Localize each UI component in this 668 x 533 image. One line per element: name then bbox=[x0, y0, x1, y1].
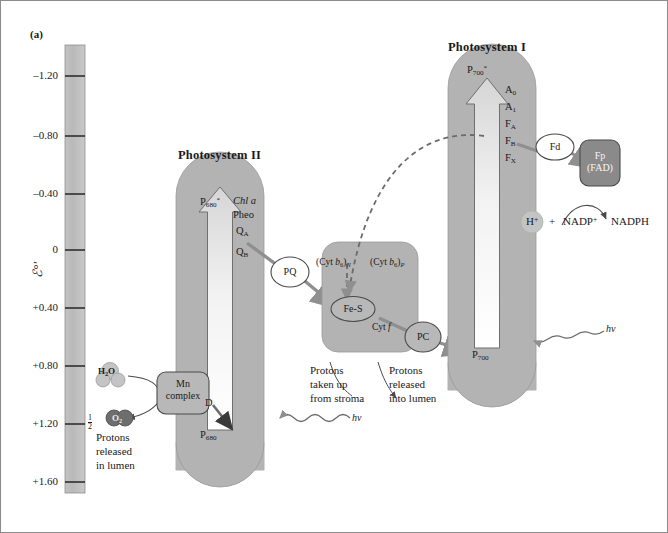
water-symbol: H bbox=[98, 366, 105, 376]
p680-ground-label: P680 bbox=[200, 429, 217, 442]
cyt-b6-n-prefix: (Cyt bbox=[316, 257, 335, 267]
qa-subscript: A bbox=[244, 230, 249, 238]
chl-a-label: Chl a bbox=[233, 195, 256, 207]
uptake-line3: from stroma bbox=[310, 392, 364, 404]
axis-tick-label: +0.80 bbox=[14, 359, 58, 372]
fb-label: FB bbox=[505, 135, 516, 148]
p680-excited-star: * bbox=[217, 196, 221, 204]
axis-tick-label: +0.40 bbox=[14, 301, 58, 314]
cyt-f-label: Cyt f bbox=[372, 322, 391, 333]
nadph-label: NADPH bbox=[611, 215, 649, 228]
psi-photon-label: hν bbox=[606, 323, 615, 335]
fa-subscript: A bbox=[511, 123, 516, 131]
proton-charge: + bbox=[534, 215, 538, 224]
oxygen-coefficient-numerator: 1 bbox=[88, 414, 92, 422]
release-line1: Protons bbox=[389, 364, 423, 376]
qb-symbol: Q bbox=[236, 246, 244, 257]
psii-photon-label: hν bbox=[352, 412, 361, 424]
fp-line1: Fp bbox=[595, 150, 606, 161]
lumen-note-line2: released bbox=[96, 445, 132, 457]
lumen-note-line3: in lumen bbox=[96, 459, 135, 471]
lumen-note-line1: Protons bbox=[96, 431, 130, 443]
fx-label: FX bbox=[505, 152, 516, 165]
lumen-proton-note: Protons released in lumen bbox=[96, 431, 135, 472]
axis-tick-label: +1.20 bbox=[14, 417, 58, 430]
qa-symbol: Q bbox=[236, 225, 244, 236]
photosystem-i-title: Photosystem I bbox=[448, 40, 526, 54]
oxygen-label: O2 bbox=[112, 413, 122, 425]
axis-tick-label: +1.60 bbox=[14, 475, 58, 488]
nadp-symbol: NADP bbox=[563, 215, 593, 227]
p700-excited-label: P700* bbox=[467, 64, 487, 77]
plus-sign: + bbox=[549, 215, 555, 228]
panel-label: (a) bbox=[30, 28, 43, 41]
fx-subscript: X bbox=[511, 157, 516, 165]
p700-excited-star: * bbox=[484, 64, 488, 72]
a0-symbol: A bbox=[505, 84, 513, 95]
proton-release-note: Protons released into lumen bbox=[389, 364, 436, 405]
qb-subscript: B bbox=[244, 251, 249, 259]
axis-tick-label: 0 bbox=[14, 243, 58, 256]
fb-subscript: B bbox=[511, 140, 516, 148]
fes-label: Fe-S bbox=[336, 303, 370, 315]
a1-label: A1 bbox=[505, 101, 516, 114]
fp-fad-label: Fp (FAD) bbox=[580, 150, 620, 173]
nadp-label: NADP+ bbox=[563, 215, 597, 228]
p680-ground-subscript: 680 bbox=[206, 434, 217, 442]
cyt-f-letter: f bbox=[388, 322, 391, 332]
oxygen-symbol: O bbox=[112, 413, 119, 423]
a1-symbol: A bbox=[505, 101, 513, 112]
proton-symbol: H bbox=[526, 215, 534, 227]
axis-tick-label: –1.20 bbox=[14, 69, 58, 82]
p680-excited-label: P680* bbox=[200, 196, 220, 209]
axis-tick-label: –0.80 bbox=[14, 129, 58, 142]
release-line2: released bbox=[389, 378, 425, 390]
axis-title: ℰ°' bbox=[31, 262, 46, 278]
water-oxygen: O bbox=[108, 366, 115, 376]
fp-line2: (FAD) bbox=[587, 162, 613, 173]
figure-canvas: (a) ℰ°' –1.20 –0.80 –0.40 0 +0.40 +0.80 … bbox=[0, 0, 668, 533]
oxygen-coefficient-denominator: 2 bbox=[88, 422, 92, 431]
release-line3: into lumen bbox=[389, 392, 436, 404]
oxygen-coefficient: 1 2 bbox=[88, 412, 92, 431]
water-to-mn-arc bbox=[128, 376, 160, 394]
mn-complex-line1: Mn bbox=[176, 378, 190, 389]
donor-d-label: D bbox=[205, 397, 213, 409]
water-label: H2O bbox=[98, 366, 115, 378]
a0-subscript: 0 bbox=[513, 89, 517, 97]
cyt-b6-n-label: (Cyt b6)N bbox=[316, 257, 351, 268]
mn-complex-label: Mn complex bbox=[160, 378, 206, 401]
cyt-b6-p-subscript: P bbox=[400, 261, 404, 268]
potential-scale-bar bbox=[65, 45, 85, 493]
p700-ground-label: P700 bbox=[472, 349, 489, 362]
psi-photon-wave bbox=[534, 331, 604, 342]
cyt-b6-p-label: (Cyt b6)P bbox=[370, 257, 404, 268]
proton-label: H+ bbox=[526, 215, 538, 228]
fd-label: Fd bbox=[538, 141, 572, 153]
cyt-b6-p-prefix: (Cyt bbox=[370, 257, 389, 267]
proton-uptake-note: Protons taken up from stroma bbox=[310, 364, 364, 405]
p700-ground-subscript: 700 bbox=[478, 354, 489, 362]
fa-label: FA bbox=[505, 118, 516, 131]
uptake-line1: Protons bbox=[310, 364, 344, 376]
pq-label: PQ bbox=[273, 266, 307, 278]
p680-excited-subscript: 680 bbox=[206, 201, 217, 209]
qb-label: QB bbox=[236, 246, 248, 259]
p700-excited-subscript: 700 bbox=[473, 69, 484, 77]
nadp-charge: + bbox=[593, 215, 597, 224]
pc-label: PC bbox=[406, 331, 440, 343]
qa-label: QA bbox=[236, 225, 249, 238]
a1-subscript: 1 bbox=[513, 106, 517, 114]
psii-photon-wave bbox=[280, 415, 350, 422]
cyt-b6-n-subscript: N bbox=[346, 261, 350, 268]
axis-tick-label: –0.40 bbox=[14, 187, 58, 200]
pheo-label: Pheo bbox=[233, 209, 254, 221]
a0-label: A0 bbox=[505, 84, 516, 97]
mn-complex-line2: complex bbox=[166, 390, 200, 401]
uptake-line2: taken up bbox=[310, 378, 348, 390]
photosystem-ii-title: Photosystem II bbox=[178, 148, 261, 162]
oxygen-subscript: 2 bbox=[119, 418, 122, 424]
cyt-f-prefix: Cyt bbox=[372, 322, 388, 332]
